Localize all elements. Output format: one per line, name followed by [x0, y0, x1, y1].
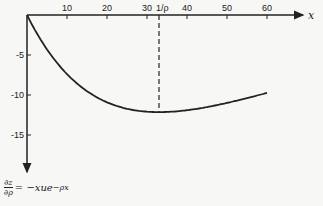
formula-rhs: = −xue — [15, 182, 53, 193]
y-axis-formula: ∂z ∂ρ = −xue−ρx — [4, 178, 69, 197]
derivative-curve — [27, 15, 267, 112]
y-ticks: -5-10-15 — [11, 50, 31, 140]
x-tick-label: 50 — [222, 3, 232, 13]
denominator: ∂ρ — [4, 188, 13, 197]
numerator: ∂z — [4, 178, 12, 188]
x-tick-label: 60 — [262, 3, 272, 13]
x-tick-label: 30 — [142, 3, 152, 13]
y-tick-label: -15 — [11, 130, 24, 140]
x-axis-label: x — [308, 9, 315, 22]
formula-exponent: −ρx — [53, 183, 69, 192]
fraction: ∂z ∂ρ — [4, 178, 13, 197]
chart: 102030405060 -5-10-15 x 1/ρ — [0, 0, 323, 206]
annotation-label: 1/ρ — [156, 3, 169, 13]
x-tick-label: 40 — [182, 3, 192, 13]
y-tick-label: -10 — [11, 90, 24, 100]
x-tick-label: 10 — [62, 3, 72, 13]
x-tick-label: 20 — [102, 3, 112, 13]
y-tick-label: -5 — [16, 50, 24, 60]
